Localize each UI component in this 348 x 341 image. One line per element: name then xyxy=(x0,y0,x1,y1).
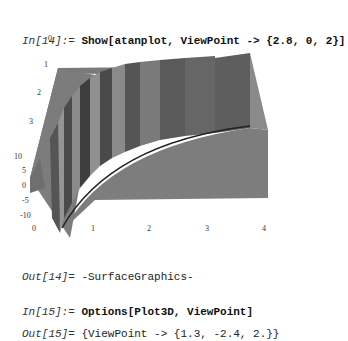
surface-plot-graphic xyxy=(0,28,348,238)
x-tick-0: 0 xyxy=(32,224,36,233)
output-cell-15: Out[15]= {ViewPoint -> {1.3, -2.4, 2.}} xyxy=(14,305,279,341)
y-tick-3: 3 xyxy=(29,117,33,126)
output-label-15: Out[15]= xyxy=(22,328,81,340)
output-label-14: Out[14]= xyxy=(22,271,81,283)
y-tick-1: 1 xyxy=(44,60,48,69)
x-tick-4: 4 xyxy=(262,224,266,233)
x-tick-3: 3 xyxy=(205,224,209,233)
output-value-14: -SurfaceGraphics- xyxy=(81,271,193,283)
z-tick-5: 5 xyxy=(22,166,26,175)
y-tick-2: 2 xyxy=(37,88,41,97)
output-value-15: {ViewPoint -> {1.3, -2.4, 2.}} xyxy=(81,328,279,340)
output-cell-14: Out[14]= -SurfaceGraphics- xyxy=(14,248,194,284)
z-tick-10: 10 xyxy=(14,152,22,161)
x-tick-1: 1 xyxy=(91,224,95,233)
z-tick-0: 0 xyxy=(22,181,26,190)
surface-plot-3d: 0 1 2 3 10 5 0 -5 -10 0 1 2 3 4 xyxy=(0,28,348,238)
x-tick-2: 2 xyxy=(147,224,151,233)
y-tick-0: 0 xyxy=(48,34,52,43)
z-tick-neg10: -10 xyxy=(20,211,31,220)
z-tick-neg5: -5 xyxy=(22,196,29,205)
